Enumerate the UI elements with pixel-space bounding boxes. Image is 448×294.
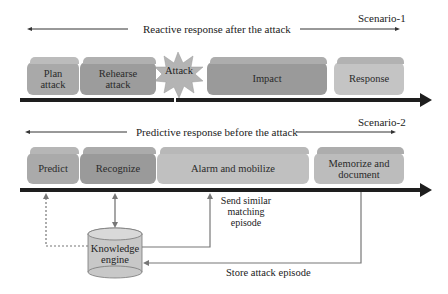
box-top bbox=[30, 147, 79, 154]
stage-rehearse-attack: Rehearse attack bbox=[80, 62, 156, 95]
box-top bbox=[160, 147, 309, 154]
box-top bbox=[337, 57, 404, 64]
stage-label: Rehearse attack bbox=[99, 68, 137, 90]
stage-plan-attack: Plan attack bbox=[27, 62, 79, 95]
box-top bbox=[210, 57, 327, 64]
stage-recognize: Recognize bbox=[80, 153, 156, 184]
stage-label: Predict bbox=[38, 163, 68, 174]
stage-label: Memorize and document bbox=[329, 158, 390, 180]
box-top bbox=[317, 147, 404, 154]
scenario1-label: Scenario-1 bbox=[358, 12, 406, 24]
send-episode-label: Send similar matching episode bbox=[216, 195, 276, 228]
stage-response: Response bbox=[334, 62, 404, 95]
stage-impact: Impact bbox=[207, 62, 327, 95]
stage-predict: Predict bbox=[27, 153, 79, 184]
scenario2-title: Predictive response before the attack bbox=[136, 126, 298, 138]
store-episode-label: Store attack episode bbox=[226, 267, 311, 279]
stage-label: Response bbox=[349, 73, 389, 84]
stage-label: Recognize bbox=[96, 163, 140, 174]
stage-label: Plan attack bbox=[40, 68, 65, 90]
box-top bbox=[30, 57, 79, 64]
scenario1-title: Reactive response after the attack bbox=[143, 23, 291, 35]
stage-alarm-mobilize: Alarm and mobilize bbox=[157, 153, 309, 184]
stage-memorize-document: Memorize and document bbox=[314, 153, 404, 184]
box-top bbox=[83, 147, 156, 154]
stage-label: Alarm and mobilize bbox=[191, 163, 275, 174]
stage-label: Impact bbox=[252, 73, 281, 84]
scenario2-label: Scenario-2 bbox=[358, 116, 406, 128]
knowledge-engine: Knowledge engine bbox=[88, 243, 142, 265]
stage-attack: Attack bbox=[163, 65, 195, 76]
box-top bbox=[83, 57, 156, 64]
